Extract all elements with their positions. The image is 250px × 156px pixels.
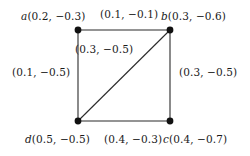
edge-label-a-b: (0.1, −0.1): [100, 9, 158, 20]
node-name-d: d: [25, 133, 32, 145]
node-d: [75, 118, 82, 125]
node-c: [167, 118, 174, 125]
node-label-d: d(0.5, −0.5): [25, 134, 90, 145]
node-label-b: b(0.3, −0.6): [161, 11, 226, 22]
node-value-a: (0.2, −0.3): [27, 10, 85, 22]
node-label-a: a(0.2, −0.3): [21, 11, 86, 22]
edge-label-d-b: (0.3, −0.5): [75, 44, 133, 55]
graph-figure: a(0.2, −0.3) b(0.3, −0.6) c(0.4, −0.7) d…: [0, 0, 250, 156]
node-label-c: c(0.4, −0.7): [163, 134, 227, 145]
edge-label-b-c: (0.3, −0.5): [179, 67, 237, 78]
node-a: [75, 27, 82, 34]
edge-label-a-d: (0.1, −0.5): [12, 67, 70, 78]
node-value-c: (0.4, −0.7): [169, 133, 227, 145]
node-value-b: (0.3, −0.6): [168, 10, 226, 22]
edge-label-d-c: (0.4, −0.3): [104, 134, 162, 145]
node-name-b: b: [161, 10, 168, 22]
node-b: [167, 27, 174, 34]
node-value-d: (0.5, −0.5): [32, 133, 90, 145]
